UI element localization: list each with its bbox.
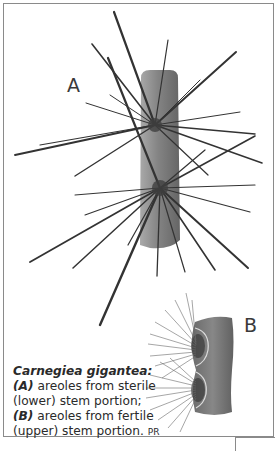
figure-label-a: A bbox=[67, 74, 80, 96]
caption-text-a: areoles from sterile (lower) stem portio… bbox=[13, 379, 156, 408]
caption-marker-a: (A) bbox=[13, 379, 34, 393]
areole-a-lower bbox=[152, 180, 168, 196]
figure-caption: Carnegiea gigantea: (A) areoles from ste… bbox=[13, 364, 163, 440]
areole-a-upper bbox=[148, 118, 162, 132]
caption-credit: PR bbox=[148, 427, 160, 437]
figure-a-spines-upper bbox=[15, 12, 262, 176]
caption-text-b: areoles from fertile (upper) stem portio… bbox=[13, 409, 154, 438]
caption-title: Carnegiea gigantea: bbox=[13, 364, 152, 378]
figure-label-b: B bbox=[244, 314, 257, 336]
figure-b-stem bbox=[191, 317, 234, 415]
caption-marker-b: (B) bbox=[13, 409, 33, 423]
